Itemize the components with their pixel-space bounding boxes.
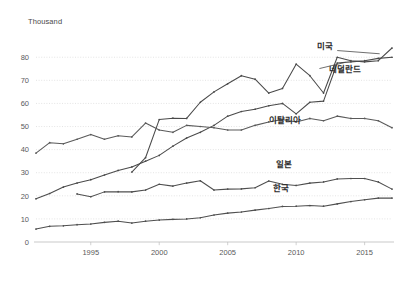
data-point <box>131 171 133 173</box>
data-point <box>35 228 37 230</box>
y-axis-tick-label: 10 <box>21 215 29 224</box>
data-point <box>336 115 338 117</box>
data-point <box>90 223 92 225</box>
data-point <box>172 145 174 147</box>
data-point <box>104 222 106 224</box>
data-point <box>391 197 393 199</box>
data-point <box>213 127 215 129</box>
y-axis-ticks: 01020304050607080 <box>21 53 29 247</box>
data-point <box>350 118 352 120</box>
data-point <box>391 56 393 58</box>
data-point <box>158 183 160 185</box>
data-point <box>172 131 174 133</box>
data-point <box>391 47 393 49</box>
data-point <box>391 127 393 129</box>
data-point <box>377 197 379 199</box>
line-chart: Thousand 01020304050607080 1995200020052… <box>0 0 415 285</box>
x-axis-tick-label: 2005 <box>219 248 236 257</box>
data-point <box>323 92 325 94</box>
data-point <box>186 118 188 120</box>
data-point <box>104 191 106 193</box>
data-point <box>227 115 229 117</box>
data-point <box>172 185 174 187</box>
data-point <box>336 178 338 180</box>
data-point <box>131 166 133 168</box>
data-point <box>309 118 311 120</box>
data-point <box>295 205 297 207</box>
x-axis-tick-label: 2015 <box>356 248 373 257</box>
y-axis-tick-label: 0 <box>25 238 29 247</box>
x-axis-ticks: 19952000200520102015 <box>82 242 373 257</box>
data-point <box>282 103 284 105</box>
data-point <box>213 91 215 93</box>
y-axis-tick-label: 80 <box>21 53 29 62</box>
data-point <box>90 179 92 181</box>
series-inline-labels: 미국네덜란드이탈리아일본한국 <box>269 41 379 193</box>
data-point <box>104 138 106 140</box>
data-point <box>364 178 366 180</box>
data-point <box>49 225 51 227</box>
data-point <box>391 188 393 190</box>
data-point <box>145 189 147 191</box>
data-point <box>295 63 297 65</box>
data-point <box>63 143 65 145</box>
data-point <box>117 135 119 137</box>
y-axis-tick-label: 20 <box>21 192 29 201</box>
data-point <box>364 118 366 120</box>
data-point <box>377 120 379 122</box>
data-point <box>336 203 338 205</box>
data-point <box>227 212 229 214</box>
x-axis-tick-label: 2000 <box>151 248 168 257</box>
data-point <box>350 61 352 63</box>
data-point <box>323 100 325 102</box>
data-point <box>377 58 379 60</box>
y-axis-tick-label: 70 <box>21 76 29 85</box>
data-point <box>241 111 243 113</box>
y-axis-tick-label: 30 <box>21 168 29 177</box>
data-point <box>117 191 119 193</box>
data-point <box>158 155 160 157</box>
data-point <box>90 196 92 198</box>
data-point <box>63 186 65 188</box>
data-point <box>350 201 352 203</box>
data-point <box>323 181 325 183</box>
data-point <box>213 214 215 216</box>
data-point <box>49 193 51 195</box>
data-point <box>199 131 201 133</box>
data-point <box>336 56 338 58</box>
x-axis-tick-label: 2010 <box>288 248 305 257</box>
data-point <box>104 174 106 176</box>
data-point <box>199 126 201 128</box>
data-point <box>227 188 229 190</box>
data-point <box>377 181 379 183</box>
data-point <box>254 78 256 80</box>
data-point <box>364 199 366 201</box>
data-point <box>186 218 188 220</box>
data-point <box>309 75 311 77</box>
data-point <box>158 129 160 131</box>
y-axis-tick-label: 60 <box>21 99 29 108</box>
data-point <box>158 219 160 221</box>
data-point <box>145 122 147 124</box>
data-point <box>145 160 147 162</box>
data-point <box>63 225 65 227</box>
data-point <box>241 75 243 77</box>
data-point <box>241 211 243 213</box>
data-point <box>323 205 325 207</box>
data-point <box>309 182 311 184</box>
data-point <box>350 178 352 180</box>
data-point <box>117 170 119 172</box>
data-point <box>49 142 51 144</box>
series-label-일본: 일본 <box>276 159 292 169</box>
data-point <box>295 185 297 187</box>
series-label-한국: 한국 <box>273 183 289 193</box>
data-point <box>309 205 311 207</box>
chart-plot-area: 01020304050607080 19952000200520102015 미… <box>0 0 415 285</box>
data-point <box>145 157 147 159</box>
x-axis-tick-label: 1995 <box>82 248 99 257</box>
data-point <box>131 191 133 193</box>
y-axis-tick-label: 40 <box>21 145 29 154</box>
data-point <box>282 88 284 90</box>
data-point <box>323 120 325 122</box>
data-point <box>76 138 78 140</box>
